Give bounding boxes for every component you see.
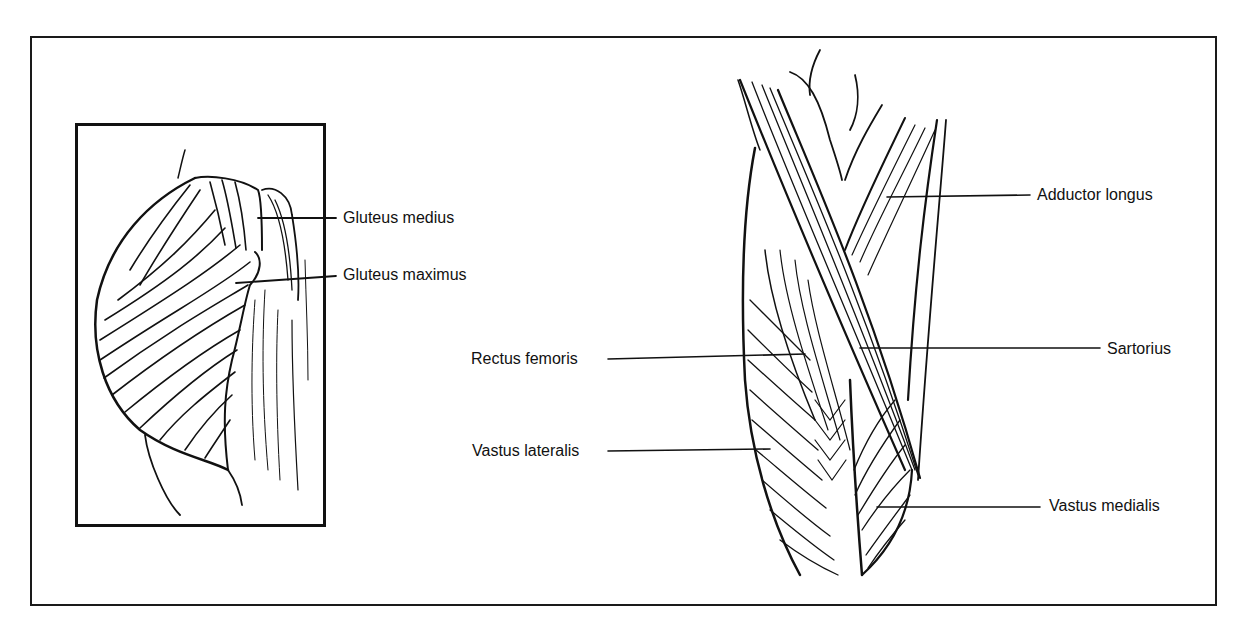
label-gluteus-medius: Gluteus medius: [343, 209, 454, 227]
leader-gluteus-maximus: [236, 276, 336, 283]
leader-adductor-longus: [887, 195, 1030, 197]
label-vastus-medialis: Vastus medialis: [1049, 497, 1160, 515]
label-sartorius: Sartorius: [1107, 340, 1171, 358]
label-rectus-femoris: Rectus femoris: [471, 350, 578, 368]
thigh-muscles-drawing: [738, 50, 946, 575]
label-vastus-lateralis: Vastus lateralis: [472, 442, 579, 460]
leader-vastus-lateralis: [608, 449, 770, 451]
label-gluteus-maximus: Gluteus maximus: [343, 266, 467, 284]
label-adductor-longus: Adductor longus: [1037, 186, 1153, 204]
anatomy-illustration: [0, 0, 1245, 637]
gluteal-muscles-drawing: [95, 150, 308, 515]
